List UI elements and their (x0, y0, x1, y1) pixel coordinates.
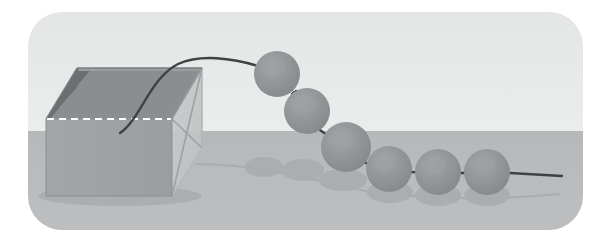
bead-1-highlight (260, 57, 285, 76)
bead-1[interactable] (254, 51, 300, 97)
bead-4-highlight (372, 152, 397, 171)
shadow-bead-3 (319, 169, 367, 191)
bead-2[interactable] (284, 88, 330, 134)
bead-4[interactable] (366, 146, 412, 192)
bead-5[interactable] (415, 149, 461, 195)
bead-2-highlight (290, 94, 315, 113)
bead-5-highlight (421, 155, 446, 174)
bead-6[interactable] (464, 149, 510, 195)
bead-3[interactable] (321, 122, 371, 172)
bead-3-highlight (328, 129, 356, 150)
illustration-root (0, 0, 611, 242)
open-box (46, 68, 202, 196)
scene-illustration (0, 0, 611, 242)
bead-6-highlight (470, 155, 495, 174)
box-front-face[interactable] (46, 119, 172, 196)
backdrop-panel (28, 12, 583, 230)
